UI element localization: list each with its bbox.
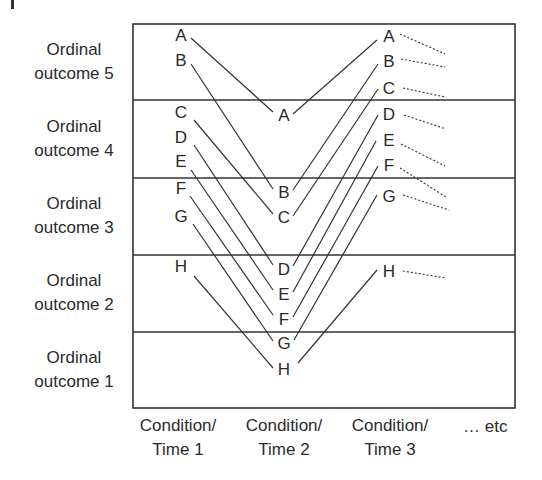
label-a-t1: A (175, 26, 187, 45)
dots-e (401, 144, 445, 166)
label-h-t3: H (383, 262, 395, 281)
dots-h (403, 271, 446, 278)
dots-c (403, 88, 445, 97)
label-b-t2: B (278, 183, 289, 202)
column-label-line1: Condition/ (229, 414, 339, 438)
label-f-t1: F (176, 179, 186, 198)
label-e-t2: E (278, 285, 289, 304)
line-f-t2-t3 (293, 166, 378, 317)
label-f-t3: F (384, 156, 394, 175)
row-label-line2: outcome 3 (14, 216, 134, 240)
label-g-t2: G (277, 334, 290, 353)
line-d-t1-t2 (194, 145, 273, 265)
etc-label: … etc (463, 417, 507, 437)
line-b-t2-t3 (293, 64, 378, 190)
line-e-t1-t2 (191, 170, 273, 290)
row-label-line2: outcome 5 (14, 62, 134, 86)
dots-g (403, 195, 449, 210)
dots-a (400, 34, 445, 54)
column-label-line1: Condition/ (123, 414, 233, 438)
row-label-outcome-4: Ordinal outcome 4 (14, 115, 134, 163)
column-label-line2: Time 2 (229, 438, 339, 462)
subject-labels-t2: A B C D E F G H (277, 106, 290, 379)
label-g-t3: G (382, 187, 395, 206)
line-h-t1-t2 (194, 276, 273, 368)
line-b-t1-t2 (191, 64, 273, 189)
dots-b (401, 59, 445, 67)
segments-t1-t2 (190, 38, 273, 368)
label-a-t2: A (278, 106, 290, 125)
dots-d (404, 115, 446, 129)
column-label-time-3: Condition/ Time 3 (335, 414, 445, 462)
outcome-bands (133, 24, 515, 408)
row-label-line1: Ordinal (14, 346, 134, 370)
row-label-line1: Ordinal (14, 269, 134, 293)
row-label-outcome-3: Ordinal outcome 3 (14, 192, 134, 240)
label-g-t1: G (174, 207, 187, 226)
label-h-t1: H (175, 257, 187, 276)
row-label-outcome-5: Ordinal outcome 5 (14, 38, 134, 86)
column-label-time-2: Condition/ Time 2 (229, 414, 339, 462)
subject-labels-t1: A B C D E F G H (174, 26, 187, 276)
line-a-t1-t2 (191, 38, 273, 112)
segments-t2-t3 (293, 40, 378, 363)
dots-f (400, 168, 446, 197)
continuation-dotted-lines (400, 34, 449, 278)
column-label-line2: Time 3 (335, 438, 445, 462)
label-h-t2: H (278, 360, 290, 379)
row-label-line1: Ordinal (14, 38, 134, 62)
row-label-line2: outcome 4 (14, 139, 134, 163)
label-a-t3: A (383, 27, 395, 46)
label-d-t1: D (175, 128, 187, 147)
row-label-line1: Ordinal (14, 192, 134, 216)
label-c-t3: C (383, 79, 395, 98)
column-label-time-1: Condition/ Time 1 (123, 414, 233, 462)
line-c-t2-t3 (293, 89, 378, 216)
row-label-outcome-1: Ordinal outcome 1 (14, 346, 134, 394)
row-label-line2: outcome 2 (14, 293, 134, 317)
label-c-t1: C (175, 103, 187, 122)
row-label-outcome-2: Ordinal outcome 2 (14, 269, 134, 317)
row-label-line2: outcome 1 (14, 370, 134, 394)
label-c-t2: C (278, 208, 290, 227)
column-label-line1: Condition/ (335, 414, 445, 438)
line-g-t1-t2 (193, 224, 273, 341)
subject-labels-t3: A B C D E F G H (382, 27, 395, 281)
label-d-t3: D (383, 105, 395, 124)
line-d-t2-t3 (293, 115, 378, 266)
column-label-line2: Time 1 (123, 438, 233, 462)
row-label-line1: Ordinal (14, 115, 134, 139)
line-c-t1-t2 (194, 120, 273, 214)
line-a-t2-t3 (293, 40, 377, 114)
label-b-t3: B (383, 52, 394, 71)
line-h-t2-t3 (298, 270, 377, 363)
label-f-t2: F (279, 310, 289, 329)
label-e-t1: E (175, 152, 186, 171)
label-e-t3: E (383, 131, 394, 150)
label-d-t2: D (278, 260, 290, 279)
plot-frame (133, 24, 515, 408)
label-b-t1: B (175, 51, 186, 70)
